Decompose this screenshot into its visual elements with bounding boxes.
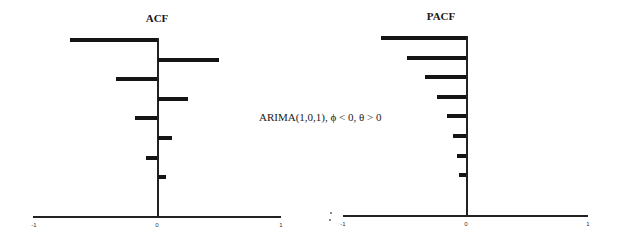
acf-tick-1: 1 [279, 222, 282, 228]
bar-lag-2 [158, 58, 220, 62]
bar-lag-3 [425, 75, 466, 79]
acf-chart: ACF -1 0 1 [0, 0, 300, 241]
bar-lag-2 [407, 56, 467, 60]
bar-lag-5 [135, 116, 157, 120]
bar-lag-6 [158, 136, 173, 140]
bar-lag-5 [447, 114, 467, 118]
pacf-tick-neg1: -1 [340, 221, 345, 227]
bar-lag-4 [158, 97, 189, 101]
pacf-chart: PACF -1 0 1 [300, 0, 617, 241]
bar-lag-1 [70, 38, 157, 42]
pacf-title: PACF [427, 10, 456, 22]
bar-lag-8 [158, 175, 167, 179]
acf-tick-neg1: -1 [31, 222, 36, 228]
bar-lag-3 [116, 77, 158, 81]
scan-artifact [330, 212, 332, 214]
pacf-zero-axis [466, 36, 468, 215]
bar-lag-6 [453, 134, 466, 138]
acf-x-axis [33, 216, 281, 218]
bar-lag-1 [381, 36, 466, 40]
pacf-tick-1: 1 [586, 221, 589, 227]
bar-lag-7 [146, 156, 157, 160]
bar-lag-4 [437, 95, 466, 99]
bar-lag-8 [459, 173, 466, 177]
acf-zero-axis [157, 38, 159, 216]
scan-artifact [329, 219, 331, 221]
bar-lag-7 [457, 154, 467, 158]
acf-tick-0: 0 [155, 222, 158, 228]
acf-title: ACF [146, 12, 169, 24]
pacf-tick-0: 0 [464, 221, 467, 227]
pacf-x-axis [343, 215, 588, 217]
